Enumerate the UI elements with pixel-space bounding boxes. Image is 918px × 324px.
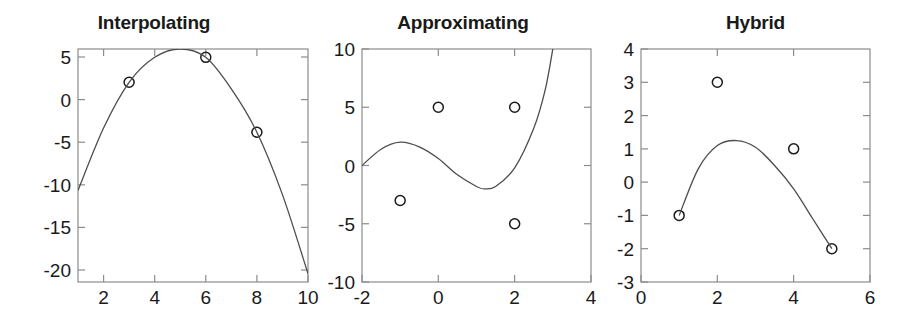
y-tick-label: 0 [344, 156, 355, 177]
x-tick-label: 4 [149, 287, 160, 308]
y-tick-label: -10 [328, 272, 355, 293]
y-tick-label: 0 [623, 172, 634, 193]
y-tick-label: 1 [623, 139, 634, 160]
y-tick-label: 2 [623, 106, 634, 127]
y-tick-label: -1 [617, 205, 634, 226]
y-tick-label: 4 [623, 39, 634, 60]
x-tick-label: 6 [201, 287, 212, 308]
panel-hybrid: Hybrid [618, 0, 918, 324]
y-tick-label: -5 [338, 214, 355, 235]
panel-approximating: Approximating [308, 0, 618, 324]
y-tick-label: -2 [617, 239, 634, 260]
y-tick-label: -10 [44, 175, 71, 196]
figure-panel-group: Interpolating [0, 0, 918, 324]
x-tick-label: 2 [712, 287, 723, 308]
plot-interpolating: 5 0 -5 -10 -15 -20 2 4 6 8 10 [0, 0, 308, 324]
x-tick-label: -2 [354, 287, 371, 308]
y-tick-label: 5 [344, 97, 355, 118]
x-tick-label: 2 [98, 287, 109, 308]
x-tick-label: 0 [636, 287, 647, 308]
x-tick-label: 2 [509, 287, 520, 308]
axes-frame [641, 49, 870, 282]
x-tick-label: 6 [865, 287, 876, 308]
plot-approximating: 10 5 0 -5 -10 -2 0 2 4 [308, 0, 618, 324]
plot-hybrid: 4 3 2 1 0 -1 -2 -3 0 2 4 6 [618, 0, 918, 324]
y-tick-label: -15 [44, 217, 71, 238]
axes-frame [78, 49, 308, 282]
y-tick-label: 3 [623, 72, 634, 93]
axes-frame [362, 49, 591, 282]
x-tick-label: 8 [252, 287, 263, 308]
y-tick-label: -20 [44, 260, 71, 281]
panel-interpolating: Interpolating [0, 0, 308, 324]
x-tick-label: 4 [788, 287, 799, 308]
y-tick-label: 5 [60, 47, 71, 68]
x-tick-label: 4 [586, 287, 597, 308]
y-tick-label: -3 [617, 272, 634, 293]
y-tick-label: -5 [54, 132, 71, 153]
x-tick-label: 0 [433, 287, 444, 308]
y-tick-label: 0 [60, 90, 71, 111]
y-tick-label: 10 [334, 39, 355, 60]
